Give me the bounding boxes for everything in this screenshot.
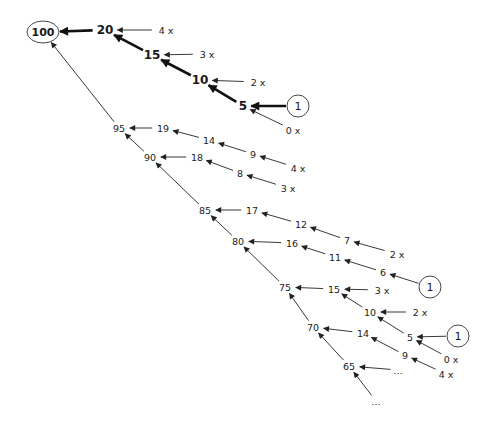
node-n8: 8 <box>237 168 243 179</box>
node-n19: 19 <box>157 123 169 134</box>
node-label: 16 <box>286 238 298 249</box>
arrow-c1c-to-n5b <box>417 336 446 337</box>
node-label: 14 <box>203 135 215 146</box>
arrow-n7x-to-n7 <box>354 242 385 251</box>
arrow-n80-to-n85 <box>211 216 232 235</box>
node-label: 65 <box>343 361 355 372</box>
node-n15: 15 <box>144 48 161 62</box>
node-label: 4 x <box>439 369 454 380</box>
node-n16: 16 <box>286 238 298 249</box>
node-label: 3 x <box>375 285 390 296</box>
node-label: 10 <box>364 307 376 318</box>
node-c1b: 1 <box>419 276 441 298</box>
arrow-n5b-to-n10b <box>378 317 404 333</box>
arrow-n11-to-n16 <box>302 246 326 254</box>
node-n100: 100 <box>27 21 59 43</box>
arrow-n8x-to-n8 <box>247 175 276 184</box>
nodes-layer: 100204 x153 x102 x510 x95191494 x901883 … <box>27 21 469 407</box>
node-n65: 65 <box>343 361 355 372</box>
node-label: 4 x <box>159 25 174 36</box>
node-n6: 6 <box>380 267 386 278</box>
node-n9a: 9 <box>250 149 256 160</box>
arrow-n7-to-n12 <box>311 227 341 237</box>
node-n14a: 14 <box>203 135 215 146</box>
node-label: 2 x <box>390 249 405 260</box>
node-label: 1 <box>427 281 434 294</box>
node-n7x: 2 x <box>390 249 405 260</box>
arrow-n5bx-to-n5b <box>416 340 441 353</box>
node-n10b: 10 <box>364 307 376 318</box>
node-n14b: 14 <box>357 328 369 339</box>
node-label: 19 <box>157 123 169 134</box>
arrow-n5-to-n10 <box>208 85 236 102</box>
arrow-n15-to-n20 <box>114 35 143 50</box>
node-n15x: 3 x <box>200 49 215 60</box>
node-label: 70 <box>307 322 319 333</box>
arrow-n9ax-to-n9a <box>260 156 286 164</box>
arrow-n16-to-n80 <box>249 241 281 242</box>
node-label: 4 x <box>291 163 306 174</box>
node-label: 12 <box>295 219 307 230</box>
node-label: 15 <box>144 48 161 62</box>
node-n12: 12 <box>295 219 307 230</box>
node-label: 9 <box>402 350 408 361</box>
node-label: 3 x <box>281 183 296 194</box>
node-n70: 70 <box>307 322 319 333</box>
node-label: 15 <box>328 284 340 295</box>
node-label: 17 <box>246 205 258 216</box>
node-label: 9 <box>250 149 256 160</box>
node-n9ax: 4 x <box>291 163 306 174</box>
tree-diagram: 100204 x153 x102 x510 x95191494 x901883 … <box>0 0 497 423</box>
node-n10x: 2 x <box>251 77 266 88</box>
arrow-n14b-to-n70 <box>324 328 353 331</box>
node-label: 10 <box>192 73 209 87</box>
node-n90: 90 <box>144 152 156 163</box>
arrow-n95-to-n100 <box>51 42 114 121</box>
node-n20: 20 <box>97 23 114 37</box>
node-label: 1 <box>455 330 462 343</box>
node-n95: 95 <box>113 123 125 134</box>
node-label: 0 x <box>286 125 301 136</box>
arrow-n10x-to-n10 <box>212 80 243 81</box>
node-n5bx: 0 x <box>444 354 459 365</box>
node-dots1: … <box>393 365 403 376</box>
arrow-n20-to-n100 <box>60 30 93 31</box>
node-c1c: 1 <box>447 325 469 347</box>
node-label: 100 <box>32 26 55 39</box>
node-n10bx: 2 x <box>413 307 428 318</box>
node-n5b: 5 <box>407 332 413 343</box>
arrow-n12-to-n17 <box>262 213 291 221</box>
node-label: 8 <box>237 168 243 179</box>
node-n20x: 4 x <box>159 25 174 36</box>
node-label: 0 x <box>444 354 459 365</box>
node-n5: 5 <box>239 99 247 113</box>
arrow-n8-to-n18 <box>206 160 233 170</box>
node-label: 95 <box>113 123 125 134</box>
node-n8x: 3 x <box>281 183 296 194</box>
node-n75: 75 <box>279 282 291 293</box>
node-n17: 17 <box>246 205 258 216</box>
node-label: … <box>393 365 403 376</box>
arrow-dots1-to-n65 <box>360 367 391 370</box>
arrow-n90-to-n95 <box>125 134 144 151</box>
node-label: 11 <box>329 252 341 263</box>
node-n9bx: 4 x <box>439 369 454 380</box>
arrow-n10b-to-n15b <box>342 294 363 307</box>
arrow-n15x-to-n15 <box>164 54 192 55</box>
node-n18: 18 <box>191 152 203 163</box>
node-n15bx: 3 x <box>375 285 390 296</box>
arrow-dots2-to-n65 <box>354 372 372 395</box>
arrow-n85-to-n90 <box>156 163 199 204</box>
arrow-n9a-to-n14a <box>219 143 246 152</box>
arrow-n14a-to-n19 <box>173 131 199 138</box>
node-n85: 85 <box>199 205 211 216</box>
node-dots2: … <box>371 396 381 407</box>
node-n10: 10 <box>192 73 209 87</box>
arrow-n70-to-n75 <box>289 293 308 320</box>
node-label: 6 <box>380 267 386 278</box>
node-n15b: 15 <box>328 284 340 295</box>
arrow-n9b-to-n14b <box>371 337 398 351</box>
node-label: 75 <box>279 282 291 293</box>
node-n11: 11 <box>329 252 341 263</box>
node-n80: 80 <box>232 236 244 247</box>
